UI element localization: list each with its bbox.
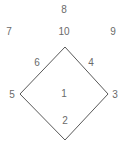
region-label-8: 8 [61,5,67,15]
diamond-shape [0,0,131,150]
region-label-6: 6 [34,58,40,68]
region-label-1: 1 [61,89,67,99]
region-label-10: 10 [58,27,69,37]
diagram-canvas: 8 7 10 9 6 4 5 1 3 2 [0,0,131,150]
region-label-7: 7 [6,27,12,37]
region-label-9: 9 [110,27,116,37]
region-label-3: 3 [112,90,118,100]
region-label-2: 2 [62,116,68,126]
region-label-5: 5 [9,90,15,100]
region-label-4: 4 [88,58,94,68]
